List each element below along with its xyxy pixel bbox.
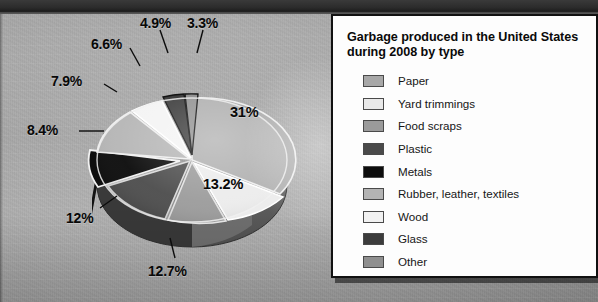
pie-label-glass: 4.9% <box>140 15 171 31</box>
legend-item-label: Yard trimmings <box>398 98 475 110</box>
pie-chart: 31% 13.2% 12.7% 12% 8.4% 7.9% 6.6% 4.9% … <box>0 0 330 302</box>
legend-title: Garbage produced in the United States du… <box>347 30 579 60</box>
legend-panel: Garbage produced in the United States du… <box>331 14 598 278</box>
pie-label-wood: 6.6% <box>91 36 122 52</box>
legend-swatch <box>363 233 384 245</box>
pie-label-paper: 31% <box>230 104 258 120</box>
legend-swatch <box>363 211 384 223</box>
pie-label-plastic: 12% <box>66 210 93 226</box>
pie-label-metals: 8.4% <box>27 122 58 138</box>
legend-swatch <box>363 166 384 178</box>
legend-item-label: Food scraps <box>398 120 462 132</box>
screenshot-root: 31% 13.2% 12.7% 12% 8.4% 7.9% 6.6% 4.9% … <box>0 0 598 302</box>
legend-item-label: Other <box>398 256 427 268</box>
legend-item: Rubber, leather, textiles <box>333 183 596 206</box>
pie-label-food-scraps: 12.7% <box>148 263 187 279</box>
legend-item-label: Rubber, leather, textiles <box>398 188 519 200</box>
legend-item: Plastic <box>333 138 596 161</box>
pie-top-sheen <box>97 98 287 222</box>
legend-swatch <box>363 143 384 155</box>
pie-label-rubber-leather-textiles: 7.9% <box>51 73 82 89</box>
legend-item: Metals <box>333 160 596 183</box>
legend-swatch <box>363 75 384 87</box>
legend-item-label: Glass <box>398 233 428 245</box>
legend-swatch <box>363 98 384 110</box>
legend-item: Glass <box>333 228 596 251</box>
legend-swatch <box>363 120 384 132</box>
legend-item: Other <box>333 251 596 274</box>
legend-item: Food scraps <box>333 115 596 138</box>
legend-item: Yard trimmings <box>333 93 596 116</box>
legend-item: Wood <box>333 206 596 229</box>
pie-label-yard-trimmings: 13.2% <box>203 176 243 192</box>
pie-chart-svg <box>0 0 330 302</box>
legend-list: PaperYard trimmingsFood scrapsPlasticMet… <box>333 70 596 273</box>
legend-swatch <box>363 188 384 200</box>
legend-swatch <box>363 256 384 268</box>
photo-top-edge-band <box>0 0 598 14</box>
legend-item-label: Paper <box>398 75 429 87</box>
legend-item-label: Metals <box>398 166 432 178</box>
pie-label-other: 3.3% <box>187 15 218 31</box>
legend-item: Paper <box>333 70 596 93</box>
legend-item-label: Wood <box>398 211 428 223</box>
legend-item-label: Plastic <box>398 143 432 155</box>
